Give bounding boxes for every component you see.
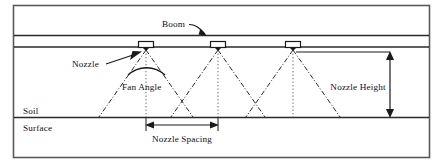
nozzle-2 (211, 42, 226, 52)
nozzle-spacing-label: Nozzle Spacing (152, 134, 212, 144)
fan-angle-label: Fan Angle (122, 82, 161, 92)
nozzle-leader-line (106, 55, 133, 64)
fan-edge-left (171, 50, 218, 117)
nozzle-body (211, 42, 226, 48)
nozzle-body (286, 42, 301, 48)
surface-label: Surface (23, 123, 52, 133)
nozzle-tip (290, 48, 297, 52)
nozzle-tip (143, 48, 150, 52)
fan-edge-right (218, 50, 265, 117)
nozzle-height-label: Nozzle Height (330, 82, 386, 92)
boom-label: Boom (162, 19, 185, 29)
spray-fan-2 (171, 50, 265, 117)
diagram-canvas: Boom Nozzle Fan Angle Nozzle Height Nozz… (0, 0, 442, 168)
nozzle-body (139, 42, 154, 48)
nozzle-height-arrow-down (386, 109, 394, 118)
fan-edge-left (246, 50, 293, 117)
spray-fan-3 (246, 50, 340, 117)
nozzle-1 (139, 42, 154, 52)
nozzle-3 (286, 42, 301, 52)
nozzle-tip (215, 48, 222, 52)
nozzle-label: Nozzle (72, 59, 99, 69)
soil-label: Soil (23, 106, 39, 116)
sprayer-boom-diagram: Boom Nozzle Fan Angle Nozzle Height Nozz… (0, 0, 442, 168)
